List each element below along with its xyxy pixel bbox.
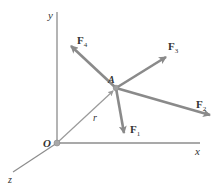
force-label-f3: F3	[168, 40, 179, 55]
x-axis-label: x	[194, 145, 200, 157]
position-vector-label: r	[93, 112, 97, 123]
position-vector-r	[58, 91, 113, 142]
force-label-f1: F1	[130, 123, 141, 138]
force-diagram: y x z r F1 F2 F3 F4 A O	[0, 0, 221, 185]
force-vector-f1	[116, 88, 124, 133]
axes: y x z	[7, 9, 200, 185]
force-vector-f3	[116, 57, 166, 88]
force-label-f4: F4	[77, 34, 88, 49]
origin-marker	[54, 140, 60, 146]
point-a-label: A	[107, 74, 115, 85]
force-vectors	[71, 46, 210, 133]
point-a-marker	[113, 85, 119, 91]
origin-label: O	[43, 137, 51, 149]
y-axis-label: y	[47, 9, 53, 21]
z-axis-label: z	[7, 174, 12, 185]
